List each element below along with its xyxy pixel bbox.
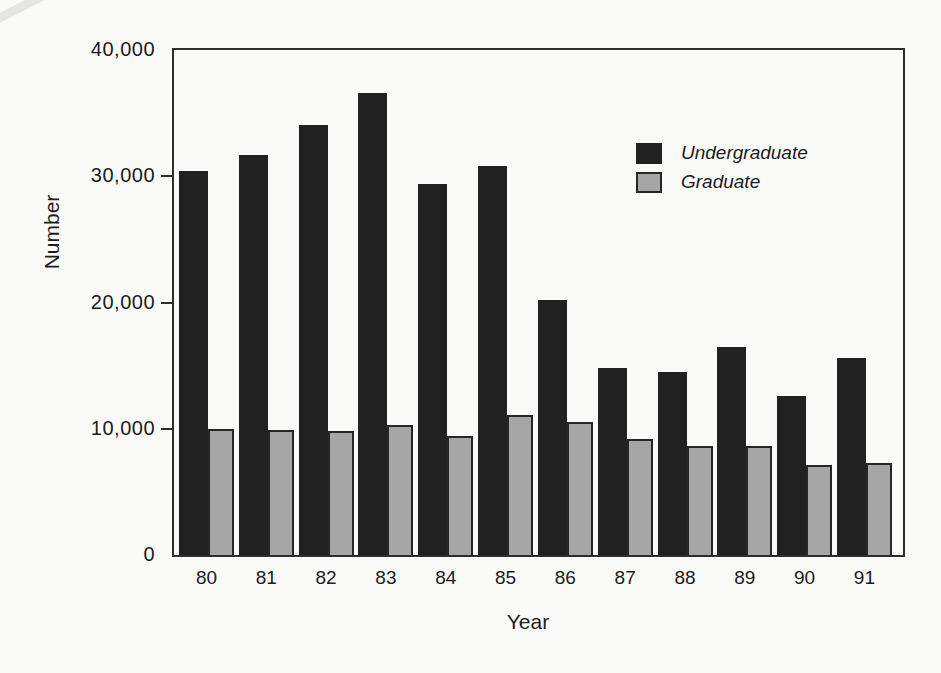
- undergraduate-bar-86: [538, 300, 567, 555]
- legend-item-graduate: Graduate: [636, 171, 808, 193]
- x-axis-title: Year: [507, 610, 549, 634]
- bar-group-82: 82: [299, 50, 354, 555]
- legend-item-undergraduate: Undergraduate: [636, 142, 808, 164]
- graduate-bar-91: [866, 463, 892, 555]
- undergraduate-swatch-icon: [636, 143, 662, 164]
- bar-group-87: 87: [598, 50, 653, 555]
- y-tick-label: 20,000: [70, 291, 155, 314]
- undergraduate-bar-85: [478, 166, 507, 555]
- x-tick-label-80: 80: [196, 567, 217, 589]
- bar-group-90: 90: [777, 50, 832, 555]
- x-tick-label-86: 86: [555, 567, 576, 589]
- undergraduate-bar-82: [299, 125, 328, 556]
- graduate-bar-85: [507, 415, 533, 555]
- y-tick-label: 0: [70, 543, 155, 566]
- y-tick-mark: [161, 428, 174, 430]
- x-tick-label-91: 91: [854, 567, 875, 589]
- bar-group-88: 88: [658, 50, 713, 555]
- x-tick-label-87: 87: [615, 567, 636, 589]
- bar-group-89: 89: [717, 50, 772, 555]
- graduate-swatch-icon: [636, 172, 662, 193]
- bar-group-85: 85: [478, 50, 533, 555]
- bars-container: 808182838485868788899091: [179, 50, 892, 555]
- graduate-bar-88: [687, 446, 713, 555]
- bar-group-83: 83: [358, 50, 413, 555]
- graduate-bar-81: [268, 430, 294, 555]
- graduate-bar-84: [447, 436, 473, 555]
- y-tick-mark: [161, 302, 174, 304]
- bar-group-81: 81: [239, 50, 294, 555]
- bar-group-84: 84: [418, 50, 473, 555]
- x-tick-label-88: 88: [674, 567, 695, 589]
- bar-group-91: 91: [837, 50, 892, 555]
- undergraduate-bar-87: [598, 368, 627, 555]
- x-tick-label-85: 85: [495, 567, 516, 589]
- undergraduate-bar-84: [418, 184, 447, 555]
- graduate-bar-82: [328, 431, 354, 555]
- legend-label-undergraduate: Undergraduate: [681, 142, 808, 164]
- x-tick-label-82: 82: [316, 567, 337, 589]
- bar-group-86: 86: [538, 50, 593, 555]
- undergraduate-bar-80: [179, 171, 208, 555]
- graduate-bar-86: [567, 422, 593, 555]
- plot-area: 010,00020,00030,00040,000 80818283848586…: [172, 48, 905, 557]
- scan-artifact: [0, 0, 56, 27]
- x-tick-label-83: 83: [375, 567, 396, 589]
- legend-label-graduate: Graduate: [681, 171, 760, 193]
- undergraduate-bar-81: [239, 155, 268, 555]
- y-tick-mark: [161, 175, 174, 177]
- bar-chart-figure: Number 010,00020,00030,00040,000 8081828…: [0, 0, 941, 673]
- legend: Undergraduate Graduate: [636, 142, 808, 193]
- graduate-bar-87: [627, 439, 653, 555]
- y-tick-label: 40,000: [70, 38, 155, 61]
- x-tick-label-81: 81: [256, 567, 277, 589]
- graduate-bar-89: [746, 446, 772, 555]
- undergraduate-bar-88: [658, 372, 687, 555]
- x-tick-label-90: 90: [794, 567, 815, 589]
- y-tick-label: 30,000: [70, 164, 155, 187]
- graduate-bar-83: [387, 425, 413, 555]
- bar-group-80: 80: [179, 50, 234, 555]
- undergraduate-bar-89: [717, 347, 746, 555]
- x-tick-label-89: 89: [734, 567, 755, 589]
- graduate-bar-90: [806, 465, 832, 555]
- undergraduate-bar-91: [837, 358, 866, 555]
- y-axis-title: Number: [40, 195, 64, 270]
- graduate-bar-80: [208, 429, 234, 555]
- undergraduate-bar-83: [358, 93, 387, 555]
- y-tick-label: 10,000: [70, 417, 155, 440]
- undergraduate-bar-90: [777, 396, 806, 555]
- x-tick-label-84: 84: [435, 567, 456, 589]
